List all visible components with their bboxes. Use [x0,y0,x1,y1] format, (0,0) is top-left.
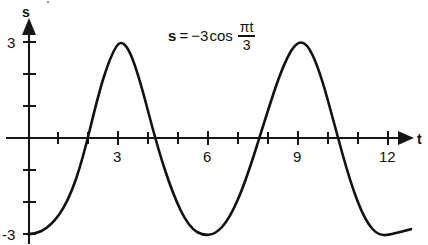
y-axis-arrow-icon [22,18,36,35]
graph-figure: s t 3 -3 3 6 9 12 s = −3 cos πt 3 [0,0,428,245]
equation-amplitude: −3 [191,28,208,43]
equation-annotation: s = −3 cos πt 3 [168,20,255,52]
equation-fraction: πt 3 [238,20,256,52]
x-axis-arrow-icon [398,131,414,145]
fraction-denominator: 3 [241,37,253,52]
equation-lhs: s [168,28,177,43]
fraction-numerator: πt [238,20,256,35]
equation-function-name: cos [209,28,232,43]
equation-equals-sign: = [180,28,189,43]
